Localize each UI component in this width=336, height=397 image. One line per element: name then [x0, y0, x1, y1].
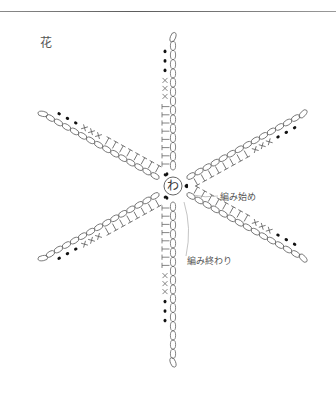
slip-stitch-dot	[164, 50, 167, 54]
label-end: 編み終わり	[187, 254, 232, 267]
treble-stitch	[155, 200, 159, 207]
slip-stitch-dot	[284, 237, 289, 241]
treble-stitch	[208, 170, 212, 177]
treble-stitch	[230, 207, 234, 214]
treble-stitch	[134, 154, 138, 161]
single-crochet	[266, 227, 273, 234]
chain-stitch	[170, 220, 175, 229]
slip-stitch-dot	[164, 309, 167, 313]
crochet-chart: わ	[0, 0, 336, 397]
single-crochet	[81, 241, 88, 248]
single-crochet	[252, 219, 259, 226]
treble-stitch	[215, 199, 219, 206]
chain-stitch	[170, 303, 175, 312]
treble-stitch	[127, 150, 131, 157]
chain-stitch	[170, 312, 175, 321]
chain-stitch	[170, 87, 175, 96]
treble-stitch	[105, 138, 109, 145]
chain-stitch	[170, 78, 175, 87]
slip-stitch-dot	[276, 233, 281, 237]
single-crochet	[81, 124, 88, 131]
treble-stitch	[237, 155, 241, 162]
treble-stitch	[194, 178, 198, 185]
treble-stitch	[134, 212, 138, 219]
end-leader-line	[184, 202, 189, 256]
single-crochet	[88, 237, 95, 244]
label-start: 編み始め	[220, 190, 256, 203]
single-crochet	[95, 132, 102, 139]
treble-stitch	[223, 162, 227, 169]
arm-up	[162, 32, 177, 176]
slip-stitch-dot	[284, 130, 289, 134]
chain-stitch	[170, 211, 175, 220]
slip-stitch-dot	[164, 59, 167, 63]
treble-stitch	[127, 216, 131, 223]
slip-stitch-dot	[73, 121, 78, 125]
arm-down	[162, 196, 177, 368]
chain-stitch	[170, 142, 175, 151]
chain-stitch	[170, 239, 175, 248]
treble-stitch	[215, 166, 219, 173]
chain-stitch	[170, 257, 175, 266]
slip-stitch-dot	[164, 319, 167, 323]
single-crochet	[163, 94, 168, 99]
single-crochet	[163, 281, 168, 286]
chain-stitch	[170, 202, 175, 211]
slip-stitch-dot	[292, 126, 297, 130]
treble-stitch	[148, 204, 152, 211]
treble-stitch	[244, 151, 248, 158]
arm-upper-right	[180, 108, 313, 191]
treble-stitch	[141, 158, 145, 165]
arm-lower-left	[36, 187, 169, 270]
chain-tip	[298, 253, 308, 264]
chain-stitch	[170, 133, 175, 142]
arms-group	[36, 32, 313, 368]
treble-stitch	[201, 174, 205, 181]
chain-stitch	[170, 276, 175, 285]
chain-stitch	[170, 50, 175, 59]
slip-stitch-dot	[292, 242, 297, 246]
single-crochet	[259, 142, 266, 149]
slip-stitch-dot	[73, 247, 78, 251]
single-crochet	[259, 223, 266, 230]
slip-stitch-dot	[164, 69, 167, 73]
treble-stitch	[148, 162, 152, 169]
single-crochet	[252, 146, 259, 153]
treble-stitch	[112, 224, 116, 231]
treble-stitch	[194, 187, 198, 194]
chain-stitch	[170, 331, 175, 340]
slip-stitch-dot	[276, 135, 281, 139]
treble-stitch	[155, 166, 159, 173]
chain-stitch	[45, 114, 56, 123]
chain-stitch	[170, 69, 175, 78]
single-crochet	[88, 128, 95, 135]
chain-tip	[38, 111, 49, 118]
arm-upper-left	[36, 102, 169, 185]
slip-stitch-dot	[164, 300, 167, 304]
treble-stitch	[120, 146, 124, 153]
chain-tip	[298, 108, 308, 119]
single-crochet	[163, 86, 168, 91]
chain-stitch	[170, 349, 175, 358]
chain-stitch	[170, 230, 175, 239]
treble-stitch	[230, 159, 234, 166]
chain-stitch	[170, 115, 175, 124]
slip-stitch-dot	[65, 251, 70, 255]
chain-tip	[38, 255, 49, 262]
treble-stitch	[141, 208, 145, 215]
single-crochet	[266, 138, 273, 145]
treble-stitch	[112, 142, 116, 149]
chain-stitch	[170, 322, 175, 331]
chain-stitch	[170, 152, 175, 161]
treble-stitch	[208, 195, 212, 202]
chain-stitch	[170, 161, 175, 170]
chain-stitch	[45, 249, 56, 258]
chain-stitch	[170, 248, 175, 257]
center-ring: わ	[164, 177, 182, 195]
chain-stitch	[170, 340, 175, 349]
chain-stitch	[170, 106, 175, 115]
treble-stitch	[105, 228, 109, 235]
chain-stitch	[170, 294, 175, 303]
chain-stitch	[170, 266, 175, 275]
single-crochet	[95, 233, 102, 240]
